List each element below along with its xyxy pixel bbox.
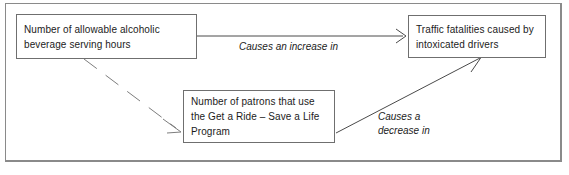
node-traffic-fatalities-label: Traffic fatalities caused by intoxicated… [416,22,538,52]
node-ride-program[interactable]: Number of patrons that use the Get a Rid… [183,90,335,143]
edge-label-decrease: Causes a decrease in [378,110,430,138]
node-alcohol-hours[interactable]: Number of allowable alcoholic beverage s… [16,14,197,59]
node-ride-program-label: Number of patrons that use the Get a Rid… [191,94,327,139]
node-traffic-fatalities[interactable]: Traffic fatalities caused by intoxicated… [408,15,546,58]
edge-label-increase: Causes an increase in [239,40,338,54]
diagram-canvas: Number of allowable alcoholic beverage s… [0,0,569,175]
node-alcohol-hours-label: Number of allowable alcoholic beverage s… [24,22,189,52]
edge-influence-dashed [84,59,181,133]
